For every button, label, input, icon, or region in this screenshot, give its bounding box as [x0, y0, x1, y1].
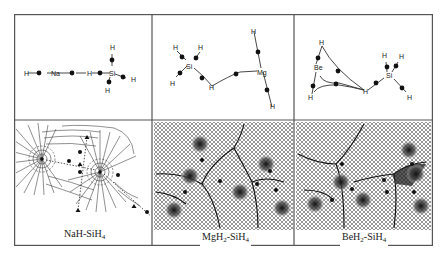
figure-grid: H Na H Si H H H: [14, 14, 433, 246]
atom-label-h: H: [399, 53, 404, 60]
atom-label-si: Si: [386, 72, 393, 79]
atom-label-h: H: [173, 44, 178, 51]
atom-label-h: H: [363, 88, 368, 95]
atom-label-h: H: [87, 70, 92, 77]
atom-label-h: H: [319, 39, 324, 46]
atom-label-h: H: [198, 44, 203, 51]
caption-beh2-sih4: BeH2-SiH4: [340, 231, 388, 246]
atom-label-na: Na: [51, 70, 60, 77]
figure-canvas: H Na H Si H H H: [14, 14, 433, 246]
caption-mgh2-sih4: MgH2-SiH4: [200, 231, 251, 246]
molecule-nah-sih4: H Na H Si H H H: [24, 44, 136, 94]
atom-label-h: H: [24, 70, 29, 77]
caption-subscript: 4: [102, 233, 106, 241]
caption-text: NaH-SiH: [64, 228, 102, 239]
molecule-beh2-sih4: Be H H H Si H H H: [308, 39, 412, 101]
atom-label-h: H: [170, 80, 175, 87]
atom-label-h: H: [308, 94, 313, 101]
caption-nah-sih4: NaH-SiH4: [62, 228, 107, 243]
caption-subscript: 4: [383, 236, 387, 244]
atom-label-h: H: [270, 103, 275, 110]
gradient-map-mgh2-sih4: [154, 122, 293, 230]
caption-text: BeH: [342, 231, 360, 242]
atom-label-h: H: [407, 94, 412, 101]
atom-label-h: H: [251, 28, 256, 35]
gradient-map-nah-sih4: [14, 123, 154, 219]
caption-subscript: 4: [246, 236, 250, 244]
atom-label-h: H: [131, 76, 136, 83]
atom-label-si: Si: [186, 63, 193, 70]
caption-text: -SiH: [227, 231, 246, 242]
atom-label-si: Si: [109, 70, 116, 77]
atom-label-mg: Mg: [257, 69, 267, 77]
atom-label-h: H: [105, 87, 110, 94]
caption-text: MgH: [202, 231, 223, 242]
caption-text: -SiH: [364, 231, 383, 242]
atom-label-be: Be: [314, 64, 323, 71]
atom-label-h: H: [382, 52, 387, 59]
molecule-mgh2-sih4: Si H H H H Mg H H: [170, 28, 275, 110]
atom-label-h: H: [110, 44, 115, 51]
atom-label-h: H: [209, 84, 214, 91]
gradient-map-beh2-sih4: [296, 122, 431, 230]
